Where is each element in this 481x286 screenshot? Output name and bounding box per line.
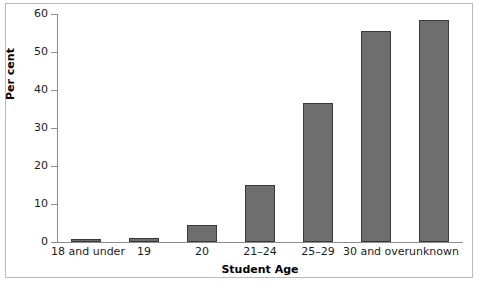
y-axis-tick — [51, 128, 58, 129]
bar-chart-figure: 0102030405060 Per cent 18 and under19202… — [0, 0, 481, 286]
bar — [419, 20, 449, 242]
x-axis-title: Student Age — [57, 263, 463, 276]
y-axis-tick — [51, 166, 58, 167]
y-axis-tick — [51, 204, 58, 205]
y-axis-tick-label-text: 20 — [4, 160, 48, 171]
y-axis-tick-label: 30 — [0, 122, 48, 133]
bar — [71, 239, 101, 242]
y-axis-title: Per cent — [2, 34, 20, 114]
bar — [303, 103, 333, 242]
bar — [245, 185, 275, 242]
y-axis-tick — [51, 90, 58, 91]
bar — [129, 238, 159, 242]
y-axis-tick-label: 0 — [0, 236, 48, 247]
y-axis-tick — [51, 52, 58, 53]
y-axis-tick-label-text: 60 — [4, 8, 48, 19]
y-axis-tick — [51, 242, 58, 243]
y-axis-tick-label: 10 — [0, 198, 48, 209]
x-axis-line — [57, 242, 463, 243]
x-axis-tick-label: unknown — [399, 245, 469, 259]
y-axis-tick-label-text: 30 — [4, 122, 48, 133]
plot-area: 0102030405060 Per cent 18 and under19202… — [0, 0, 481, 286]
y-axis-tick — [51, 14, 58, 15]
y-axis-tick-label: 60 — [0, 8, 48, 19]
y-axis-tick-label-text: 10 — [4, 198, 48, 209]
y-axis-tick-label-text: 0 — [4, 236, 48, 247]
bar — [361, 31, 391, 242]
bar — [187, 225, 217, 242]
y-axis-tick-label: 20 — [0, 160, 48, 171]
